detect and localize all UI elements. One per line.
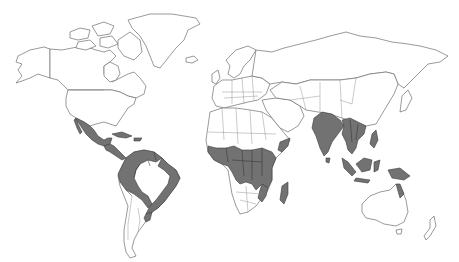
arctic-island-3 xyxy=(76,40,96,50)
sulawesi xyxy=(374,160,380,172)
sri-lanka xyxy=(326,158,330,163)
new-guinea xyxy=(388,168,410,180)
sumatra xyxy=(342,158,356,176)
alaska xyxy=(16,47,50,83)
tasmania xyxy=(396,229,402,234)
scandinavia xyxy=(226,46,256,78)
hispaniola xyxy=(134,138,142,141)
arctic-island-2 xyxy=(92,22,114,36)
arctic-island-1 xyxy=(70,28,90,40)
uk-ireland xyxy=(212,70,220,84)
madagascar xyxy=(280,182,288,204)
cuba xyxy=(112,132,132,138)
new-zealand xyxy=(424,216,436,240)
india xyxy=(312,112,344,156)
world-map xyxy=(0,0,459,262)
oceania xyxy=(362,184,436,240)
arctic-island-4 xyxy=(100,36,118,48)
central-america xyxy=(104,144,126,160)
philippines xyxy=(370,130,378,148)
asia xyxy=(252,32,448,183)
java xyxy=(354,178,370,183)
north-america xyxy=(16,14,200,160)
south-america xyxy=(118,150,180,258)
japan xyxy=(400,90,412,112)
iceland xyxy=(186,56,198,63)
baffin-island xyxy=(118,32,142,60)
borneo xyxy=(356,158,372,172)
